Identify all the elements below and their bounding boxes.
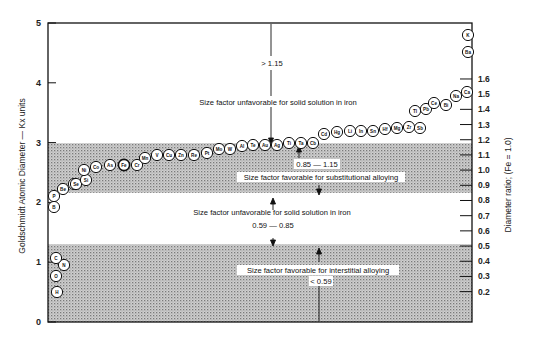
element-mo: Mo bbox=[213, 143, 224, 154]
element-al: Al bbox=[236, 140, 247, 151]
svg-text:Cu: Cu bbox=[166, 153, 172, 158]
element-b: B bbox=[48, 201, 59, 212]
svg-text:Mo: Mo bbox=[216, 147, 223, 152]
annotation-unfavorable-mid: Size factor unfavorable for solid soluti… bbox=[193, 208, 350, 217]
element-te: Te bbox=[247, 139, 258, 150]
element-mg: Mg bbox=[391, 122, 402, 133]
right-tick-label: 0.9 bbox=[478, 180, 490, 190]
svg-text:Bi: Bi bbox=[444, 103, 449, 108]
annotation-range-lt-0-59: < 0.59 bbox=[310, 277, 331, 286]
element-ca: Ca bbox=[461, 86, 472, 97]
element-ti: Ti bbox=[283, 137, 294, 148]
shaded-band-0 bbox=[48, 244, 472, 322]
right-tick-label: 1.6 bbox=[478, 74, 490, 84]
left-tick-label: 2 bbox=[36, 197, 41, 207]
right-tick-label: 1.5 bbox=[478, 89, 490, 99]
svg-text:Pt: Pt bbox=[205, 151, 210, 156]
element-o: O bbox=[50, 270, 61, 281]
right-tick-label: 0.4 bbox=[478, 256, 490, 266]
svg-text:Si: Si bbox=[84, 178, 88, 183]
right-tick-label: 0.2 bbox=[478, 287, 490, 297]
svg-text:Sb: Sb bbox=[417, 126, 423, 131]
annotation-gt-1-15: > 1.15 bbox=[261, 59, 282, 68]
element-li: Li bbox=[344, 125, 355, 136]
svg-text:Hg: Hg bbox=[334, 130, 340, 135]
svg-text:P: P bbox=[52, 194, 55, 199]
svg-text:Li: Li bbox=[348, 129, 352, 134]
element-cd: Cd bbox=[318, 128, 329, 139]
right-tick-label: 0.7 bbox=[478, 211, 490, 221]
right-tick-label: 1.0 bbox=[478, 165, 490, 175]
element-h: H bbox=[51, 286, 62, 297]
left-tick-label: 1 bbox=[36, 257, 41, 267]
element-zn: Zn bbox=[175, 149, 186, 160]
element-si: Si bbox=[80, 174, 91, 185]
svg-text:Mg: Mg bbox=[394, 126, 401, 131]
element-cu: Cu bbox=[163, 149, 174, 160]
annotation-range-0-85-1-15: 0.85 — 1.15 bbox=[296, 160, 337, 169]
svg-text:Pb: Pb bbox=[423, 107, 429, 112]
element-mn: Mn bbox=[139, 152, 150, 163]
svg-text:Ti: Ti bbox=[287, 141, 291, 146]
element-ce: Ce bbox=[428, 97, 439, 108]
element-in: In bbox=[355, 125, 366, 136]
svg-text:Ag: Ag bbox=[274, 143, 280, 148]
svg-text:Co: Co bbox=[93, 165, 99, 170]
svg-text:Be: Be bbox=[60, 187, 66, 192]
svg-text:Sn: Sn bbox=[370, 129, 376, 134]
svg-text:Ta: Ta bbox=[298, 141, 303, 146]
svg-text:Ni: Ni bbox=[82, 168, 87, 173]
element-sb: Sb bbox=[414, 122, 425, 133]
left-tick-label: 3 bbox=[36, 138, 41, 148]
svg-text:Cr: Cr bbox=[134, 163, 139, 168]
element-ni: Ni bbox=[78, 164, 89, 175]
svg-text:Se: Se bbox=[73, 182, 79, 187]
svg-text:Cd: Cd bbox=[321, 132, 327, 137]
element-be: Be bbox=[57, 183, 68, 194]
svg-text:Hf: Hf bbox=[383, 127, 388, 132]
right-tick-label: 0.3 bbox=[478, 271, 490, 281]
element-ba: Ba bbox=[462, 46, 473, 57]
right-tick-label: 0.6 bbox=[478, 226, 490, 236]
element-k: K bbox=[462, 29, 473, 40]
element-c: C bbox=[50, 252, 61, 263]
svg-text:Tl: Tl bbox=[413, 109, 417, 114]
element-fe: Fe bbox=[118, 159, 129, 170]
svg-text:Te: Te bbox=[250, 143, 255, 148]
left-axis-title: Goldschmidt Atomic Diameter — Kx units bbox=[17, 98, 27, 253]
element-w: W bbox=[224, 143, 235, 154]
left-tick-label: 4 bbox=[36, 78, 41, 88]
element-hg: Hg bbox=[331, 126, 342, 137]
element-sn: Sn bbox=[367, 125, 378, 136]
annotation-range-0-59-0-85: 0.59 — 0.85 bbox=[252, 221, 293, 230]
left-tick-label: 0 bbox=[36, 317, 41, 327]
svg-text:Fe: Fe bbox=[121, 163, 127, 168]
svg-text:In: In bbox=[359, 129, 363, 134]
element-bi: Bi bbox=[440, 99, 451, 110]
right-tick-label: 0.8 bbox=[478, 195, 490, 205]
annotation-unfavorable-top: Size factor unfavorable for solid soluti… bbox=[199, 98, 356, 107]
right-tick-label: 0.5 bbox=[478, 241, 490, 251]
element-na: Na bbox=[450, 90, 461, 101]
element-tl: Tl bbox=[409, 105, 420, 116]
element-pt: Pt bbox=[201, 147, 212, 158]
element-re: Re bbox=[188, 149, 199, 160]
element-zr: Zr bbox=[403, 121, 414, 132]
svg-text:Ce: Ce bbox=[431, 101, 437, 106]
svg-text:Mn: Mn bbox=[142, 156, 149, 161]
element-ta: Ta bbox=[295, 137, 306, 148]
left-tick-label: 5 bbox=[36, 18, 41, 28]
right-axis-title: Diameter ratio; (Fe = 1.0) bbox=[503, 137, 513, 232]
element-as: As bbox=[104, 159, 115, 170]
svg-text:As: As bbox=[107, 163, 113, 168]
svg-text:Ca: Ca bbox=[464, 90, 470, 95]
svg-text:Ba: Ba bbox=[465, 50, 471, 55]
annotation-substitutional: Size factor favorable for substitutional… bbox=[244, 173, 399, 182]
svg-text:Zr: Zr bbox=[407, 125, 412, 130]
right-tick-label: 1.2 bbox=[478, 135, 490, 145]
svg-text:Cb: Cb bbox=[310, 141, 316, 146]
element-v: V bbox=[151, 149, 162, 160]
element-ag: Ag bbox=[271, 139, 282, 150]
annotation-interstitial: Size factor favorable for interstitial a… bbox=[247, 266, 389, 275]
element-au: Au bbox=[259, 139, 270, 150]
